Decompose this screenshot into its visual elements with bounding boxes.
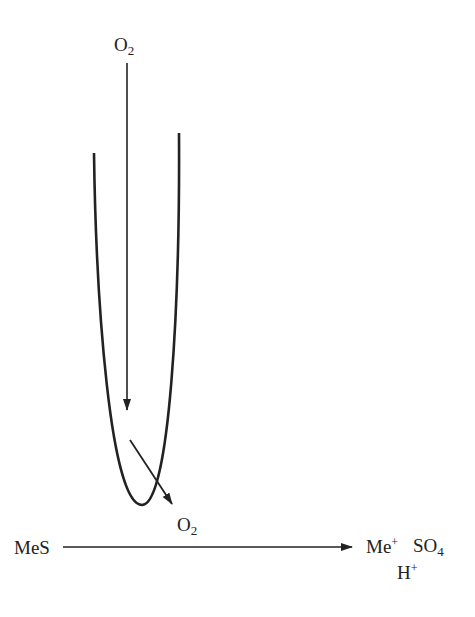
metal-charge: +: [391, 535, 398, 549]
top-oxygen-label: O2: [114, 35, 134, 57]
proton-charge: +: [411, 561, 418, 575]
reactant-label: MeS: [14, 538, 50, 557]
sulfate-symbol: SO: [413, 535, 437, 556]
product-proton: H+: [397, 562, 418, 582]
diagram-canvas: [0, 0, 475, 617]
lower-oxygen-label: O2: [177, 515, 197, 537]
oxygen-subscript: 2: [191, 523, 198, 538]
sulfate-subscript: 4: [437, 544, 444, 559]
oxygen-subscript: 2: [128, 43, 135, 58]
oxygen-symbol: O: [177, 514, 191, 535]
metal-symbol: Me: [366, 536, 391, 557]
proton-symbol: H: [397, 562, 411, 583]
product-sulfate: SO4: [413, 536, 444, 558]
oxygen-symbol: O: [114, 34, 128, 55]
product-metal-ion: Me+: [366, 536, 398, 556]
oxygen-exit-arrow: [130, 440, 172, 504]
